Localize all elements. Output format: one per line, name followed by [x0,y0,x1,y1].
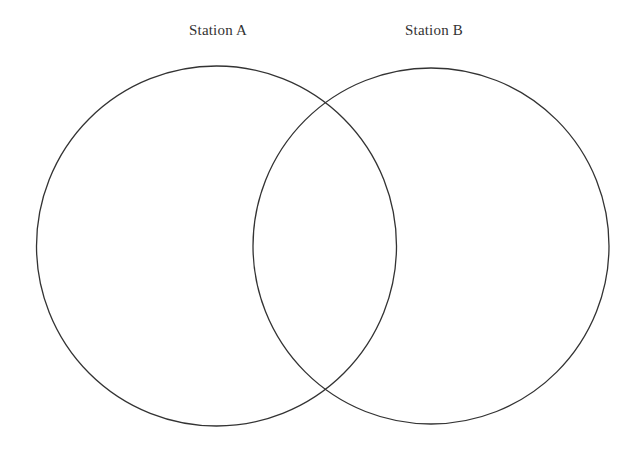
venn-canvas [0,0,639,454]
circle-station-b [253,68,609,424]
circle-station-a [37,66,397,426]
label-station-b: Station B [405,22,463,39]
label-station-a: Station A [189,22,247,39]
